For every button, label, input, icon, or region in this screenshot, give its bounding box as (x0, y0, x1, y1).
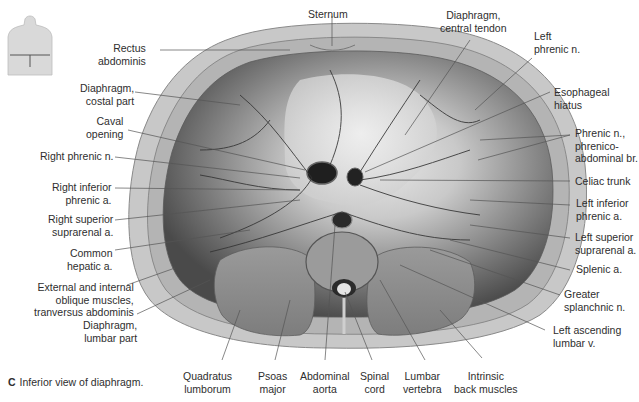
label-line: costal part (80, 95, 134, 108)
label-line: Phrenic n., (575, 127, 638, 140)
label-line: Diaphragm, (440, 9, 507, 22)
label-line: tranversus abdominis (34, 306, 134, 319)
label-right-inferior-phrenic-a: Right inferior phrenic a. (52, 181, 112, 206)
label-line: Diaphragm, (80, 82, 134, 95)
caval-opening-shape (307, 162, 337, 184)
label-line: Rectus (98, 42, 146, 55)
label-line: phrenico- (575, 140, 638, 153)
label-line: phrenic n. (534, 43, 580, 56)
label-line: Common (67, 247, 113, 260)
label-line: Caval (86, 115, 123, 128)
label-rectus-abdominis: Rectus abdominis (98, 42, 146, 67)
label-left-inferior-phrenic-a: Left inferior phrenic a. (576, 197, 629, 222)
label-line: Left inferior (576, 197, 629, 210)
label-line: Right phrenic n. (40, 150, 114, 163)
label-right-superior-suprarenal-a: Right superior suprarenal a. (48, 213, 113, 238)
label-line: Splenic a. (576, 263, 622, 276)
label-line: abdominis (98, 55, 146, 68)
label-quadratus-lumborum: Quadratus lumborum (183, 370, 232, 395)
figure-caption: CInferior view of diaphragm. (8, 376, 143, 388)
label-greater-splanchnic-n: Greater splanchnic n. (564, 288, 625, 313)
label-psoas-major: Psoas major (258, 370, 287, 395)
label-line: lumborum (183, 383, 232, 396)
spinal-cord-shape (337, 283, 351, 295)
label-line: Lumbar (403, 370, 442, 383)
label-line: major (258, 383, 287, 396)
label-line: cord (360, 383, 389, 396)
label-right-phrenic-n: Right phrenic n. (40, 150, 114, 163)
label-line: Left (534, 30, 580, 43)
label-diaphragm-central-tendon: Diaphragm, central tendon (440, 9, 507, 34)
label-esophageal-hiatus: Esophageal hiatus (554, 86, 609, 111)
label-line: Greater (564, 288, 625, 301)
label-line: suprarenal a. (575, 244, 636, 257)
label-line: Sternum (308, 8, 348, 21)
label-line: Abdominal (300, 370, 350, 383)
label-line: oblique muscles, (34, 294, 134, 307)
torso-thumbnail (5, 15, 55, 80)
label-line: Celiac trunk (575, 175, 630, 188)
label-line: Spinal (360, 370, 389, 383)
label-sternum: Sternum (308, 8, 348, 21)
label-line: phrenic a. (576, 210, 629, 223)
label-line: splanchnic n. (564, 301, 625, 314)
label-line: Right inferior (52, 181, 112, 194)
label-spinal-cord: Spinal cord (360, 370, 389, 395)
label-line: hepatic a. (67, 260, 113, 273)
label-line: Intrinsic (454, 370, 518, 383)
label-line: Psoas (258, 370, 287, 383)
label-line: Quadratus (183, 370, 232, 383)
label-line: hiatus (554, 99, 609, 112)
label-line: vertebra (403, 383, 442, 396)
label-caval-opening: Caval opening (86, 115, 123, 140)
label-line: central tendon (440, 22, 507, 35)
label-left-superior-suprarenal-a: Left superior suprarenal a. (575, 231, 636, 256)
label-line: lumbar part (83, 332, 137, 345)
label-line: back muscles (454, 383, 518, 396)
label-line: abdominal br. (575, 152, 638, 165)
label-line: aorta (300, 383, 350, 396)
label-common-hepatic-a: Common hepatic a. (67, 247, 113, 272)
label-line: Right superior (48, 213, 113, 226)
label-line: Left ascending (553, 324, 621, 337)
label-line: Esophageal (554, 86, 609, 99)
label-left-phrenic-n: Left phrenic n. (534, 30, 580, 55)
label-celiac-trunk: Celiac trunk (575, 175, 630, 188)
label-line: phrenic a. (52, 194, 112, 207)
label-diaphragm-lumbar-part: Diaphragm, lumbar part (83, 319, 137, 344)
label-line: Left superior (575, 231, 636, 244)
label-abdominal-aorta: Abdominal aorta (300, 370, 350, 395)
left-muscle-mass (214, 247, 315, 336)
label-phrenic-n-phrenicoabdominal-br: Phrenic n., phrenico- abdominal br. (575, 127, 638, 165)
label-lumbar-vertebra: Lumbar vertebra (403, 370, 442, 395)
label-line: External and internal (34, 281, 134, 294)
label-diaphragm-costal-part: Diaphragm, costal part (80, 82, 134, 107)
label-line: Diaphragm, (83, 319, 137, 332)
caption-letter: C (8, 376, 16, 388)
label-line: suprarenal a. (48, 226, 113, 239)
label-line: lumbar v. (553, 337, 621, 350)
label-left-ascending-lumbar-v: Left ascending lumbar v. (553, 324, 621, 349)
caption-text: Inferior view of diaphragm. (20, 376, 144, 388)
label-oblique-muscles: External and internal oblique muscles, t… (34, 281, 134, 319)
label-line: opening (86, 128, 123, 141)
label-splenic-a: Splenic a. (576, 263, 622, 276)
label-intrinsic-back-muscles: Intrinsic back muscles (454, 370, 518, 395)
